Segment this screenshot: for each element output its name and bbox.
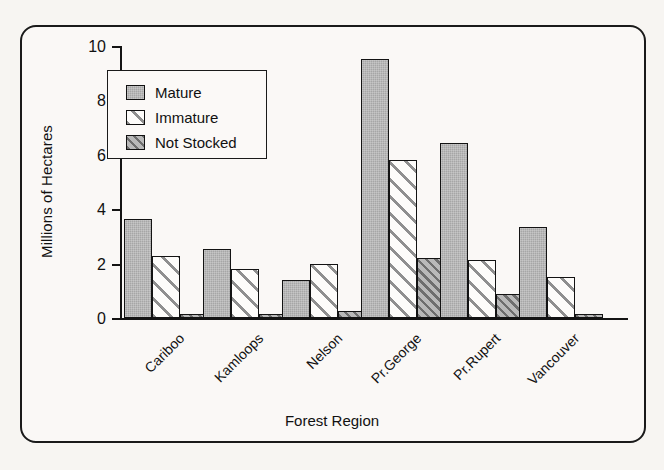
bar-kamloops-immature <box>231 269 259 318</box>
bar-nelson-mature <box>282 280 310 318</box>
bar-cariboo-mature <box>124 219 152 318</box>
legend-swatch-notstocked-icon <box>126 135 145 150</box>
legend-swatch-immature-icon <box>126 110 145 125</box>
legend-swatch-mature-icon <box>126 85 145 100</box>
x-tick-label-nelson: Nelson <box>263 330 345 412</box>
legend-label-mature: Mature <box>155 84 202 101</box>
bar-vancouver-immature <box>547 277 575 318</box>
y-axis-title: Millions of Hectares <box>38 82 55 302</box>
bar-nelson-immature <box>310 264 338 318</box>
legend: Mature Immature Not Stocked <box>107 70 267 159</box>
x-tick-label-kamloops: Kamloops <box>184 330 266 412</box>
bar-prgeorge-mature <box>361 59 389 318</box>
bar-prrupert-mature <box>440 143 468 318</box>
figure-root: 10 8 6 4 2 0 Millions of Hectares <box>0 0 664 470</box>
legend-item-immature: Immature <box>126 105 266 130</box>
y-tick-mark <box>112 318 121 320</box>
y-tick-mark <box>112 209 121 211</box>
y-tick-label-4: 4 <box>66 201 106 219</box>
y-tick-label-2: 2 <box>66 256 106 274</box>
x-tick-label-prrupert: Pr.Rupert <box>421 330 503 412</box>
y-tick-label-10: 10 <box>66 38 106 56</box>
legend-item-notstocked: Not Stocked <box>126 130 266 155</box>
bar-vancouver-mature <box>519 227 547 318</box>
legend-item-mature: Mature <box>126 80 266 105</box>
bar-vancouver-notstocked <box>575 314 603 318</box>
bar-prgeorge-immature <box>389 160 417 318</box>
bar-cariboo-immature <box>152 256 180 318</box>
x-tick-label-prgeorge: Pr.George <box>342 330 424 412</box>
y-tick-label-6: 6 <box>66 147 106 165</box>
bar-kamloops-mature <box>203 249 231 318</box>
bar-chart: 10 8 6 4 2 0 Millions of Hectares <box>0 0 664 470</box>
legend-label-notstocked: Not Stocked <box>155 134 237 151</box>
y-tick-label-0: 0 <box>66 310 106 328</box>
x-tick-label-vancouver: Vancouver <box>500 330 582 412</box>
y-tick-label-8: 8 <box>66 92 106 110</box>
x-tick-label-cariboo: Cariboo <box>105 330 187 412</box>
x-axis-line <box>120 318 628 320</box>
x-axis-title: Forest Region <box>0 412 664 429</box>
y-tick-mark <box>112 264 121 266</box>
y-tick-mark <box>112 46 121 48</box>
legend-label-immature: Immature <box>155 109 218 126</box>
bar-prrupert-immature <box>468 260 496 318</box>
